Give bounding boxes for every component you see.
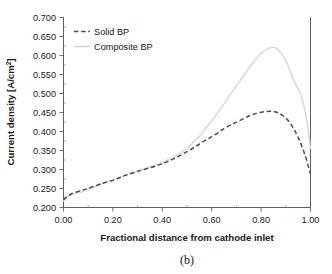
y-tick-label-4: 0.400 xyxy=(33,127,56,137)
y-axis-title-suffix: ] xyxy=(5,58,16,61)
y-tick-label-6: 0.500 xyxy=(33,89,56,99)
y-axis-title-group: Current density [A/cm2] xyxy=(5,58,16,165)
y-axis-tick-labels: 0.700 0.650 0.600 0.550 0.500 0.450 0.40… xyxy=(33,13,56,213)
y-axis-title: Current density [A/cm2] xyxy=(5,58,16,165)
legend-label-composite-bp: Composite BP xyxy=(94,42,153,52)
current-density-line-chart: 0.700 0.650 0.600 0.550 0.500 0.450 0.40… xyxy=(0,0,332,274)
y-axis-ticks xyxy=(60,18,64,208)
chart-legend: Solid BP Composite BP xyxy=(74,27,153,52)
x-tick-label-1: 0.20 xyxy=(104,215,122,225)
x-tick-label-4: 0.80 xyxy=(252,215,270,225)
x-tick-label-5: 1.00 xyxy=(302,215,320,225)
y-tick-label-3: 0.350 xyxy=(33,146,56,156)
y-tick-label-7: 0.550 xyxy=(33,70,56,80)
y-tick-label-0: 0.200 xyxy=(33,203,56,213)
data-series-group xyxy=(64,47,311,201)
x-axis-title: Fractional distance from cathode inlet xyxy=(100,232,274,243)
y-tick-label-8: 0.600 xyxy=(33,51,56,61)
y-tick-label-2: 0.300 xyxy=(33,165,56,175)
x-axis-ticks xyxy=(64,205,311,211)
x-tick-label-2: 0.40 xyxy=(153,215,171,225)
series-line-composite-bp xyxy=(64,47,311,201)
figure-container: 0.700 0.650 0.600 0.550 0.500 0.450 0.40… xyxy=(0,0,332,274)
y-axis-title-main: Current density [A/cm xyxy=(5,65,16,165)
y-tick-label-5: 0.450 xyxy=(33,108,56,118)
legend-label-solid-bp: Solid BP xyxy=(94,27,129,37)
x-tick-label-0: 0.00 xyxy=(55,215,73,225)
y-tick-label-9: 0.650 xyxy=(33,32,56,42)
figure-caption: (b) xyxy=(180,253,194,267)
series-line-solid-bp xyxy=(64,111,311,200)
y-tick-label-1: 0.250 xyxy=(33,184,56,194)
y-tick-label-10: 0.700 xyxy=(33,13,56,23)
x-tick-label-3: 0.60 xyxy=(203,215,221,225)
x-axis-tick-labels: 0.00 0.20 0.40 0.60 0.80 1.00 xyxy=(55,215,320,225)
